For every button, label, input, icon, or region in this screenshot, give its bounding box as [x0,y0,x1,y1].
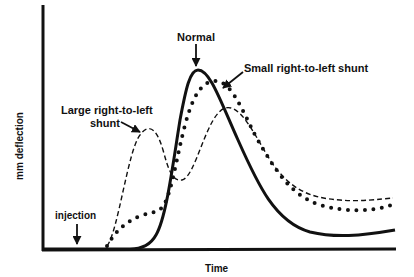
y-axis-label: mm deflection [14,112,25,180]
series-normal [43,70,395,249]
label-normal: Normal [177,31,215,43]
label-injection: injection [55,210,96,221]
series-large-shunt [107,108,393,246]
label-small-shunt: Small right-to-left shunt [244,62,368,74]
x-axis-label: Time [205,263,229,274]
chart-canvas: Normal Small right-to-left shunt Large r… [0,0,414,277]
label-large-shunt-line2: shunt [90,117,120,129]
large-shunt-arrow [121,122,140,132]
label-large-shunt-line1: Large right-to-left [61,104,153,116]
small-shunt-arrow [223,72,243,88]
